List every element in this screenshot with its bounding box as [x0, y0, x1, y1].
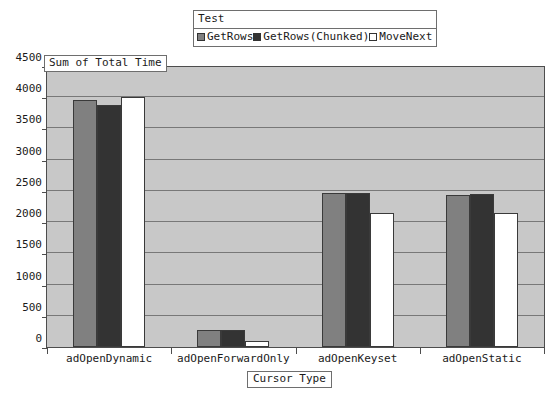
x-axis-category-label: adOpenKeyset: [296, 352, 420, 365]
bar[interactable]: [197, 330, 221, 347]
x-axis-category-label: adOpenForwardOnly: [171, 352, 295, 365]
legend-item-1[interactable]: GetRows(Chunked): [253, 31, 369, 43]
legend-swatch-icon: [253, 33, 261, 41]
y-axis-title: Sum of Total Time: [44, 55, 167, 72]
bar-group: [47, 66, 171, 347]
legend-item-label: MoveNext: [379, 31, 432, 43]
legend-item-0[interactable]: GetRows: [197, 31, 253, 43]
bar[interactable]: [97, 105, 121, 347]
chart-legend: Test GetRowsGetRows(Chunked)MoveNext: [193, 10, 437, 47]
bars-layer: [47, 66, 544, 347]
x-axis-tick-mark: [171, 348, 172, 354]
bar[interactable]: [245, 341, 269, 347]
bar[interactable]: [221, 330, 245, 347]
x-axis-category-label: adOpenStatic: [420, 352, 544, 365]
bar[interactable]: [322, 193, 346, 347]
x-axis-tick-mark: [47, 348, 48, 354]
bar[interactable]: [121, 97, 145, 347]
legend-item-label: GetRows(Chunked): [263, 31, 369, 43]
y-axis-tick-marks: [0, 66, 47, 349]
x-axis-title: Cursor Type: [247, 371, 332, 388]
bar-group: [171, 66, 295, 347]
bar[interactable]: [73, 100, 97, 347]
bar[interactable]: [370, 213, 394, 347]
legend-item-2[interactable]: MoveNext: [369, 31, 432, 43]
bar-group: [420, 66, 544, 347]
x-axis-tick-mark: [420, 348, 421, 354]
bar[interactable]: [346, 193, 370, 347]
bar[interactable]: [494, 213, 518, 347]
legend-swatch-icon: [197, 33, 205, 41]
x-axis-tick-mark: [544, 348, 545, 354]
legend-swatch-icon: [369, 33, 377, 41]
legend-item-label: GetRows: [207, 31, 253, 43]
bar[interactable]: [470, 194, 494, 347]
legend-entries: GetRowsGetRows(Chunked)MoveNext: [194, 29, 436, 46]
y-axis-tick-label: 4500: [2, 52, 42, 63]
legend-title: Test: [194, 11, 436, 29]
x-axis-tick-mark: [296, 348, 297, 354]
x-axis-category-label: adOpenDynamic: [47, 352, 171, 365]
bar[interactable]: [446, 195, 470, 347]
bar-group: [296, 66, 420, 347]
